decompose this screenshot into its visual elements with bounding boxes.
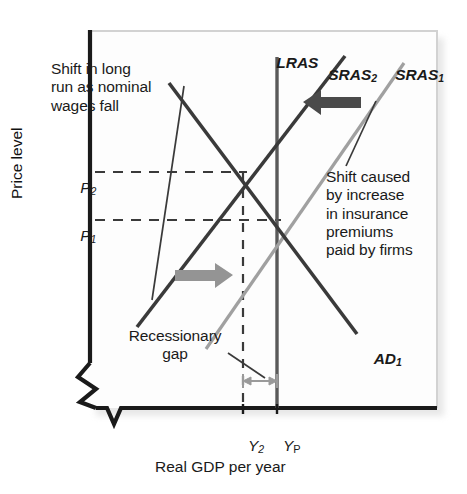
curve-label-ad1: AD1 [357,332,402,387]
annotation-left-note: Shift in long run as nominal wages fall [51,60,211,115]
y-tick-label-p2: P2 [63,161,96,216]
ad-as-diagram-figure: LRAS SRAS2 SRAS1 AD1 P2 P1 Y2 YP Price l… [0,0,467,494]
y-axis-title: Price level [8,128,26,200]
curve-label-sras1: SRAS1 [378,48,444,103]
curve-label-lras: LRAS [259,36,318,91]
x-axis-title: Real GDP per year [155,458,286,476]
y-axis-title-wrapper: Price level [8,59,32,199]
curve-label-sras2: SRAS2 [311,48,377,103]
y-tick-label-p1: P1 [63,209,96,264]
annotation-recessionary-gap: Recessionary gap [110,327,240,364]
annotation-right-note: Shift caused by increase in insurance pr… [326,168,456,259]
